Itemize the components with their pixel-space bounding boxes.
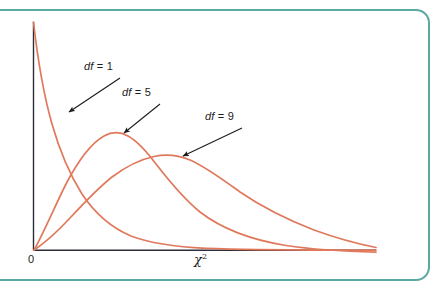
chi-square-distribution-figure: df = 1 df = 5 df = 9 0 χ2	[0, 0, 448, 293]
arrow-df-1	[69, 78, 120, 112]
curve-group	[34, 22, 377, 252]
arrow-df-5	[124, 104, 160, 133]
curve-df-9	[34, 155, 376, 250]
x-axis-origin-label: 0	[28, 253, 34, 265]
annotation-label-df-5: df = 5	[122, 86, 151, 98]
annotation-label-df-9: df = 9	[205, 110, 234, 122]
chi-symbol: χ	[194, 252, 202, 267]
chart-canvas	[0, 0, 448, 293]
arrow-df-9	[183, 128, 242, 156]
x-axis-label: χ2	[194, 252, 207, 267]
chi-exponent: 2	[202, 252, 207, 261]
annotation-label-df-1: df = 1	[84, 60, 113, 72]
